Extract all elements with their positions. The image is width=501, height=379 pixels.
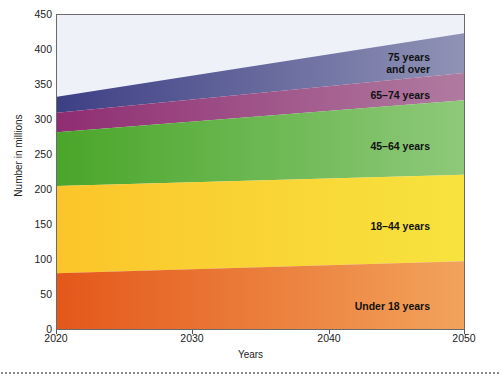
x-tick-2040: 2040 xyxy=(306,333,352,344)
y-tick-450: 450 xyxy=(4,9,52,19)
bottom-dotted-rule xyxy=(0,372,501,374)
label-under-18: Under 18 years xyxy=(355,300,430,312)
y-tick-150: 150 xyxy=(4,219,52,229)
y-tick-200: 200 xyxy=(4,184,52,194)
label-45-64: 45–64 years xyxy=(370,140,430,152)
y-tick-250: 250 xyxy=(4,149,52,159)
band-under-18 xyxy=(57,261,464,329)
label-18-44: 18–44 years xyxy=(370,220,430,232)
label-75-and-over: 75 years and over xyxy=(386,51,430,75)
x-tick-2030: 2030 xyxy=(169,333,215,344)
x-axis-title: Years xyxy=(0,349,501,360)
y-tick-350: 350 xyxy=(4,79,52,89)
y-tick-50: 50 xyxy=(4,289,52,299)
y-tick-100: 100 xyxy=(4,254,52,264)
y-tick-300: 300 xyxy=(4,114,52,124)
x-tick-2050: 2050 xyxy=(441,333,487,344)
x-tick-2020: 2020 xyxy=(33,333,79,344)
stacked-area-chart: 450 400 350 300 250 200 150 100 50 0 xyxy=(0,0,501,379)
y-axis-title: Number in millions xyxy=(13,86,24,226)
label-65-74: 65–74 years xyxy=(370,89,430,101)
y-axis-tick-labels: 450 400 350 300 250 200 150 100 50 0 xyxy=(0,0,52,379)
y-tick-400: 400 xyxy=(4,44,52,54)
plot-area: 75 years and over 65–74 years 45–64 year… xyxy=(56,14,465,330)
